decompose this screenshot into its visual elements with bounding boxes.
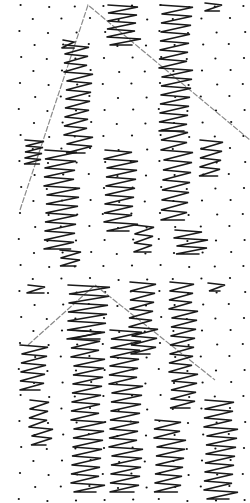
grid-dot xyxy=(34,356,36,358)
grid-dot xyxy=(216,213,218,215)
grid-dot xyxy=(89,17,91,19)
grid-dot xyxy=(243,447,245,449)
grid-dot xyxy=(188,84,190,86)
grid-dot xyxy=(47,32,49,34)
grid-dot xyxy=(47,292,49,294)
grid-dot xyxy=(242,473,244,475)
grid-dot xyxy=(201,459,203,461)
grid-dot xyxy=(102,5,104,7)
grid-dot xyxy=(60,407,62,409)
grid-dot xyxy=(201,199,203,201)
grid-dot xyxy=(201,329,203,331)
grid-dot xyxy=(88,173,90,175)
grid-dot xyxy=(117,487,119,489)
grid-dot xyxy=(230,381,232,383)
grid-dot xyxy=(200,355,202,357)
grid-dot xyxy=(174,226,176,228)
grid-dot xyxy=(18,160,20,162)
grid-dot xyxy=(172,330,174,332)
grid-dot xyxy=(103,187,105,189)
grid-dot xyxy=(174,304,176,306)
grid-dot xyxy=(33,252,35,254)
grid-dot xyxy=(188,266,190,268)
grid-dot xyxy=(102,343,104,345)
grid-dot xyxy=(33,122,35,124)
grid-dot xyxy=(145,434,147,436)
grid-dot xyxy=(61,459,63,461)
grid-dot xyxy=(186,448,188,450)
grid-dot xyxy=(186,370,188,372)
grid-dot xyxy=(200,95,202,97)
grid-dot xyxy=(48,396,50,398)
grid-dot xyxy=(244,499,246,501)
grid-dot xyxy=(242,5,244,7)
grid-dot xyxy=(18,238,20,240)
grid-dot xyxy=(20,56,22,58)
grid-dot xyxy=(104,239,106,241)
grid-dot xyxy=(19,82,21,84)
grid-dot xyxy=(160,186,162,188)
grid-dot xyxy=(186,240,188,242)
grid-dot xyxy=(186,110,188,112)
grid-dot xyxy=(146,18,148,20)
grid-dot xyxy=(244,239,246,241)
grid-dot xyxy=(132,108,134,110)
grid-dot xyxy=(242,213,244,215)
zigzag-stroke xyxy=(159,5,194,131)
grid-dot xyxy=(104,109,106,111)
grid-dot xyxy=(214,447,216,449)
grid-dot xyxy=(18,30,20,32)
grid-dot xyxy=(62,43,64,45)
grid-dot xyxy=(20,134,22,136)
grid-dot xyxy=(18,420,20,422)
grid-dot xyxy=(116,305,118,307)
grid-dot xyxy=(228,225,230,227)
grid-dot xyxy=(229,277,231,279)
grid-dot xyxy=(160,134,162,136)
grid-dot xyxy=(228,485,230,487)
grid-dot xyxy=(88,485,90,487)
grid-dot xyxy=(20,316,22,318)
grid-dot xyxy=(228,43,230,45)
grid-dot xyxy=(20,4,22,6)
roof-lines xyxy=(20,5,250,380)
grid-dot xyxy=(48,84,50,86)
grid-dot xyxy=(200,17,202,19)
zigzag-stroke xyxy=(71,330,106,492)
grid-dot xyxy=(160,316,162,318)
grid-dot xyxy=(244,421,246,423)
grid-dot xyxy=(228,433,230,435)
grid-dot xyxy=(242,135,244,137)
grid-dot xyxy=(60,95,62,97)
grid-dot xyxy=(102,135,104,137)
grid-dot xyxy=(186,188,188,190)
grid-dot xyxy=(216,343,218,345)
grid-dot xyxy=(230,329,232,331)
grid-dot xyxy=(47,422,49,424)
zigzag-stroke xyxy=(199,140,223,176)
grid-dot xyxy=(146,356,148,358)
grid-dot xyxy=(32,18,34,20)
grid-dot xyxy=(214,135,216,137)
grid-dot xyxy=(243,57,245,59)
grid-dot xyxy=(145,44,147,46)
grid-dot xyxy=(186,58,188,60)
grid-dot xyxy=(132,238,134,240)
grid-dot xyxy=(76,83,78,85)
grid-dot xyxy=(160,264,162,266)
grid-dot xyxy=(90,121,92,123)
zigzag-stroke xyxy=(64,45,94,153)
grid-dot xyxy=(228,173,230,175)
grid-dot xyxy=(62,121,64,123)
grid-dot xyxy=(90,381,92,383)
grid-dot xyxy=(187,422,189,424)
grid-dot xyxy=(18,498,20,500)
grid-dot xyxy=(34,486,36,488)
grid-dot xyxy=(90,251,92,253)
grid-dot xyxy=(19,472,21,474)
grid-dot xyxy=(62,433,64,435)
grid-dot xyxy=(174,174,176,176)
grid-dot xyxy=(88,95,90,97)
grid-dot xyxy=(48,6,50,8)
dot-grid-drawing xyxy=(0,0,250,503)
